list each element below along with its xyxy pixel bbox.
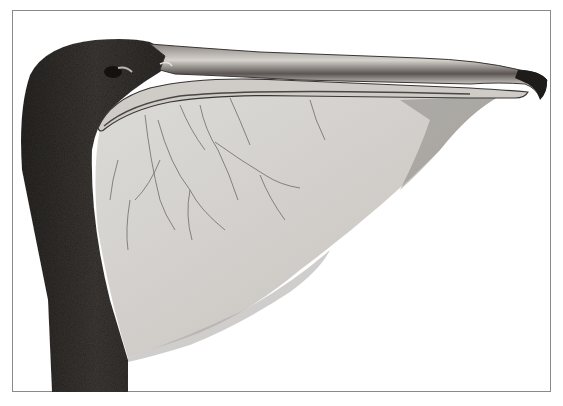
pelican-illustration <box>0 0 563 406</box>
